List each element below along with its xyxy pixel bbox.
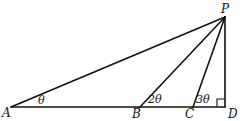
label-B: B [131,107,141,121]
label-A: A [1,106,11,120]
angle-label-C: 3θ [196,93,210,106]
geometry-diagram: P A B C D θ 2θ 3θ [0,0,240,121]
label-C: C [185,107,194,121]
angle-label-B: 2θ [147,93,162,106]
label-D: D [227,107,238,121]
label-P: P [220,2,230,16]
diagram-canvas: P A B C D θ 2θ 3θ [0,0,240,121]
angle-label-A: θ [38,94,45,107]
right-angle-marker [217,99,225,107]
